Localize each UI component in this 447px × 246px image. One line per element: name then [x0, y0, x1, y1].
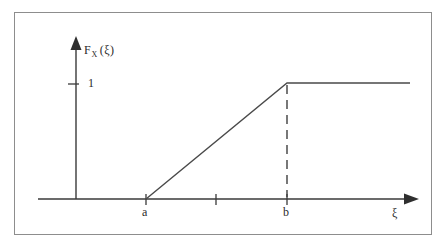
cdf-plot — [0, 0, 447, 246]
y-axis-label: FX(ξ) — [84, 44, 114, 59]
y-axis-label-subscript: X — [91, 50, 99, 59]
x-tick-label-a: a — [142, 206, 147, 218]
cdf-curve — [146, 83, 410, 199]
x-tick-label-b: b — [283, 206, 289, 218]
x-axis-symbol-label: ξ — [392, 207, 397, 219]
y-axis-label-argument: (ξ) — [99, 43, 115, 57]
x-axis-arrow-icon — [404, 194, 419, 205]
y-axis-arrow-icon — [71, 36, 82, 50]
figure-root: FX(ξ) 1 a b ξ — [0, 0, 447, 246]
y-tick-label-one: 1 — [88, 77, 94, 89]
